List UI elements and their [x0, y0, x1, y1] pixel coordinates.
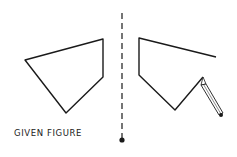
given-figure-caption: GIVEN FIGURE [14, 128, 82, 138]
given-figure [25, 39, 103, 113]
reflected-figure [139, 38, 216, 110]
pencil-icon [201, 77, 223, 117]
mirror-line-end-dot [119, 137, 124, 142]
